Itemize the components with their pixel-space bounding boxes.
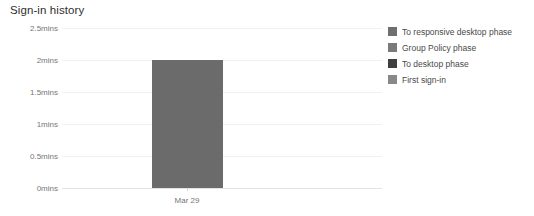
legend-swatch-icon bbox=[388, 27, 397, 36]
y-axis-tick-label: 0.5mins bbox=[30, 152, 58, 161]
legend-item[interactable]: To desktop phase bbox=[388, 56, 534, 72]
legend-item[interactable]: Group Policy phase bbox=[388, 40, 534, 56]
bar[interactable] bbox=[152, 60, 223, 188]
legend-item[interactable]: First sign-in bbox=[388, 72, 534, 88]
y-axis: 2.5mins2mins1.5mins1mins0.5mins0mins bbox=[0, 28, 58, 188]
legend-swatch-icon bbox=[388, 59, 397, 68]
legend-item-label: Group Policy phase bbox=[402, 44, 476, 53]
y-axis-tick-label: 2.5mins bbox=[30, 24, 58, 33]
legend-item[interactable]: To responsive desktop phase bbox=[388, 24, 534, 40]
y-axis-tick-label: 1.5mins bbox=[30, 88, 58, 97]
x-axis-tick-label: Mar 29 bbox=[175, 196, 200, 205]
page-title: Sign-in history bbox=[10, 4, 84, 16]
legend-swatch-icon bbox=[388, 75, 397, 84]
legend-swatch-icon bbox=[388, 43, 397, 52]
y-axis-tick-label: 0mins bbox=[37, 184, 58, 193]
chart-legend: To responsive desktop phaseGroup Policy … bbox=[388, 24, 534, 88]
legend-item-label: To desktop phase bbox=[402, 60, 469, 69]
x-axis-tick-mark bbox=[187, 188, 188, 191]
plot-area bbox=[62, 28, 382, 188]
legend-item-label: To responsive desktop phase bbox=[402, 28, 512, 37]
y-axis-tick-label: 2mins bbox=[37, 56, 58, 65]
x-axis: Mar 29 bbox=[62, 188, 382, 212]
bar-series bbox=[62, 28, 382, 188]
legend-item-label: First sign-in bbox=[402, 76, 446, 85]
y-axis-tick-label: 1mins bbox=[37, 120, 58, 129]
